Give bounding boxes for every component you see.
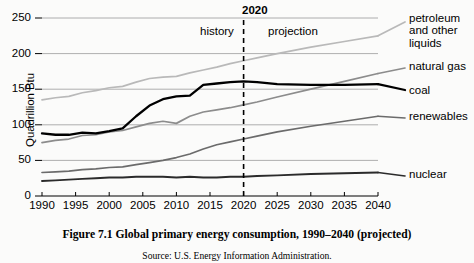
chart-plot-area: Quadrillion Btu 250200150100500 19901995… xyxy=(0,0,474,218)
series-label-natural-gas: natural gas xyxy=(409,60,466,72)
series-label-renewables: renewables xyxy=(409,110,468,122)
gridlines xyxy=(42,18,378,160)
y-tick-label: 150 xyxy=(1,82,31,94)
series-label-nuclear: nuclear xyxy=(409,168,447,180)
projection-label: projection xyxy=(268,25,318,37)
series-label-coal: coal xyxy=(409,84,430,96)
divider-year-label: 2020 xyxy=(242,4,268,16)
y-tick-label: 50 xyxy=(1,153,31,165)
x-tick-label: 2040 xyxy=(358,199,398,211)
x-tick-marks xyxy=(42,192,378,196)
data-series-lines xyxy=(42,36,378,181)
figure-caption: Figure 7.1 Global primary energy consump… xyxy=(0,228,474,241)
y-tick-marks xyxy=(35,18,42,196)
y-tick-label: 100 xyxy=(1,118,31,130)
history-label: history xyxy=(200,25,234,37)
y-tick-label: 250 xyxy=(1,11,31,23)
figure-source: Source: U.S. Energy Information Administ… xyxy=(0,250,474,263)
series-leader-lines xyxy=(378,22,405,176)
figure-container: Quadrillion Btu 250200150100500 19901995… xyxy=(0,0,474,263)
line-chart-svg xyxy=(0,0,474,218)
y-tick-label: 200 xyxy=(1,47,31,59)
series-label-petroleum: petroleum and other liquids xyxy=(409,12,460,49)
